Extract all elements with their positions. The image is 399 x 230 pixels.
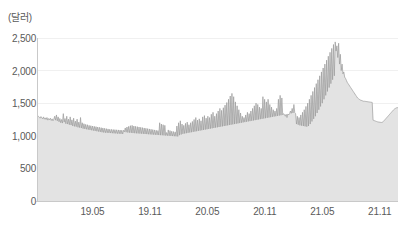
x-axis-tick-19.11: 19.11	[138, 206, 161, 217]
x-axis-tick-20.05: 20.05	[195, 206, 219, 217]
x-axis-tick-20.11: 20.11	[253, 206, 276, 217]
chart-container: (달러) 05001,0001,5002,0002,500 19.0519.11…	[0, 0, 399, 230]
x-axis-tick-19.05: 19.05	[80, 206, 104, 217]
x-axis-tick-21.11: 21.11	[368, 206, 391, 217]
chart-plot-area	[0, 0, 399, 230]
data-series-area	[38, 42, 399, 201]
x-axis-tick-21.05: 21.05	[310, 206, 334, 217]
